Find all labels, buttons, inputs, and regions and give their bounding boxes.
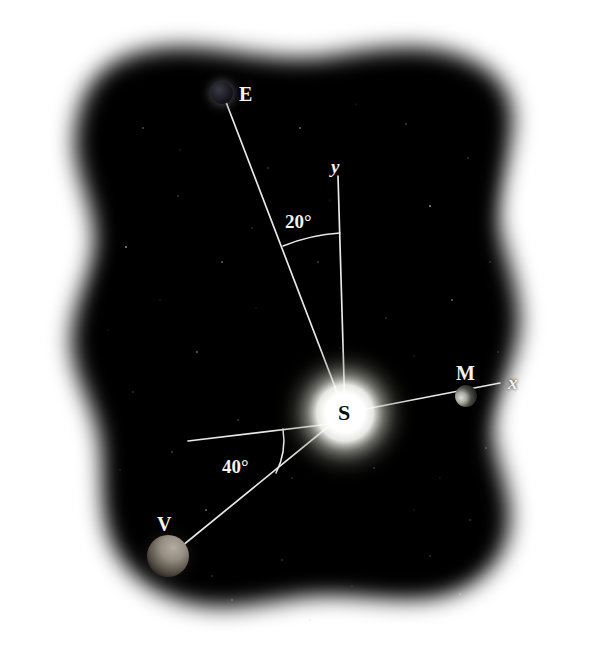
angle-label-40: 40° xyxy=(222,457,249,476)
angle-label-20: 20° xyxy=(285,212,312,231)
angle-arc-20 xyxy=(283,233,340,246)
earth-label: E xyxy=(239,84,252,104)
mercury-label: M xyxy=(456,363,475,383)
venus-label: V xyxy=(157,514,171,534)
x-axis-label: x xyxy=(508,373,518,392)
earth-sphere xyxy=(211,82,233,104)
diagram-geometry xyxy=(0,0,611,659)
venus-sphere xyxy=(147,535,189,577)
y-axis-label: y xyxy=(331,157,339,176)
mercury-body xyxy=(455,385,477,407)
sun-label: S xyxy=(338,402,350,424)
figure-canvas: S E M V x y 20° 40° xyxy=(0,0,611,659)
mercury-sphere xyxy=(455,385,477,407)
